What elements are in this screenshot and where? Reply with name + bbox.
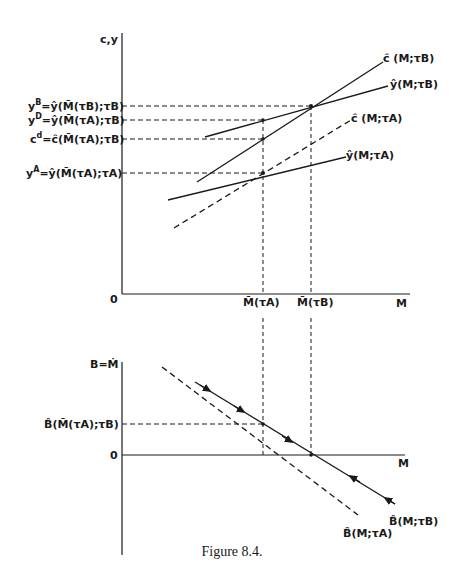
lower-x-axis-label: M xyxy=(398,457,409,470)
tick-label-B-hat: B̂(M̄(τA);τB) xyxy=(44,418,119,431)
curve-label-y-tauB: ŷ(M;τB) xyxy=(390,78,438,91)
curve-B-tauA xyxy=(162,367,358,515)
curve-label-y-tauA: ŷ(M;τA) xyxy=(346,149,394,162)
lower-origin-label: 0 xyxy=(110,449,118,462)
point-steady-state xyxy=(309,453,313,457)
figure-canvas: c,y 0 M M̄(τA) M̄(τB) yB=ŷ(M̄(τB);τB) yD… xyxy=(0,0,464,578)
tick-label-cd: cd=ĉ(M̄(τA);τB) xyxy=(30,131,124,146)
tick-label-yD: yD=ŷ(M̄(τA);τB) xyxy=(28,112,125,127)
arrow-4 xyxy=(351,477,360,483)
upper-x-axis-label: M xyxy=(396,297,407,310)
curve-y-tauA xyxy=(168,157,346,200)
point-B-hat xyxy=(261,422,265,426)
figure-caption: Figure 8.4. xyxy=(0,544,464,560)
curve-label-B-tauA: B̂(M;τA) xyxy=(343,527,392,540)
lower-chart: B=Ṁ 0 M B̂(M̄(τA);τB) B̂(M;τB) B̂(M;τA) xyxy=(44,318,438,555)
upper-y-axis-label: c,y xyxy=(100,33,118,46)
curve-label-B-tauB: B̂(M;τB) xyxy=(389,515,438,528)
upper-origin-label: 0 xyxy=(110,293,118,306)
tick-label-yA: yA=ŷ(M̄(τA);τA) xyxy=(26,165,122,180)
tick-label-MA: M̄(τA) xyxy=(243,296,280,309)
curve-label-c-tauB: ĉ (M;τB) xyxy=(383,52,434,65)
arrow-3 xyxy=(282,436,291,442)
arrow-5 xyxy=(386,499,395,505)
point-cd xyxy=(261,137,265,141)
tick-label-yB: yB=ŷ(M̄(τB);τB) xyxy=(28,98,124,113)
point-yD xyxy=(261,118,265,122)
point-yB xyxy=(309,104,313,108)
upper-chart: c,y 0 M M̄(τA) M̄(τB) yB=ŷ(M̄(τB);τB) yD… xyxy=(26,33,438,310)
arrow-2 xyxy=(234,406,243,412)
lower-y-axis-label: B=Ṁ xyxy=(90,357,119,371)
arrow-1 xyxy=(200,385,209,391)
point-yA xyxy=(261,171,265,175)
curve-B-tauB xyxy=(195,382,395,504)
curve-label-c-tauA: ĉ (M;τA) xyxy=(351,112,402,125)
tick-label-MB: M̄(τB) xyxy=(297,296,333,309)
